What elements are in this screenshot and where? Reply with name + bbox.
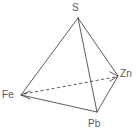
edge-zn-pb <box>97 76 118 112</box>
vertex-label-s: S <box>72 2 79 13</box>
tetrahedron-diagram: S Fe Zn Pb <box>0 0 139 134</box>
vertex-label-fe: Fe <box>2 89 14 100</box>
vertex-label-pb: Pb <box>88 118 100 129</box>
tetrahedron-svg <box>0 0 139 134</box>
edge-s-fe <box>21 18 78 95</box>
vertex-label-zn: Zn <box>120 68 132 79</box>
arrow-at-zn-icon <box>110 72 118 81</box>
edge-fe-zn-dashed <box>24 77 115 94</box>
edge-fe-pb <box>21 95 97 112</box>
